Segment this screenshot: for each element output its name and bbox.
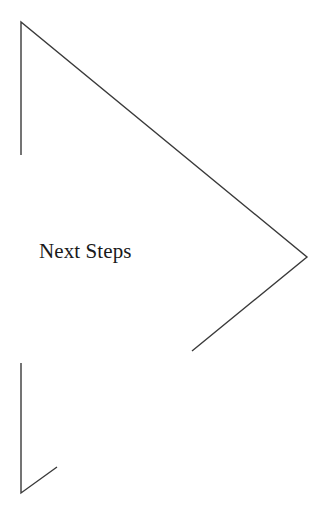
slide-canvas: Next Steps — [0, 0, 329, 523]
large-chevron-arrow-icon — [21, 22, 307, 351]
small-corner-arrow-icon — [21, 363, 57, 493]
slide-title-text: Next Steps — [39, 238, 132, 264]
